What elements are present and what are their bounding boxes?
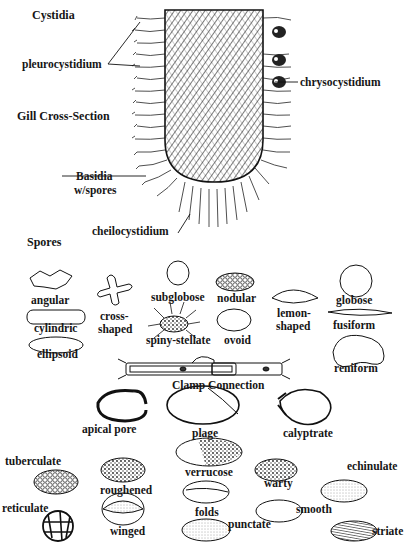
label-calyptrate: calyptrate [283, 427, 333, 439]
label-folds: folds [195, 506, 219, 518]
label-echinulate: echinulate [347, 460, 397, 472]
label-punctate: punctate [228, 518, 271, 530]
label-subglobose: subglobose [151, 291, 205, 303]
label-lemon-shaped: lemon- [277, 307, 311, 319]
label-lemon-shaped-2: shaped [276, 320, 311, 332]
label-roughened: roughened [100, 484, 152, 496]
label-warty: warty [264, 477, 293, 489]
label-ellipsoid: ellipsoid [37, 348, 78, 360]
label-globose: globose [336, 294, 372, 306]
label-nodular: nodular [217, 292, 256, 304]
label-cross-shaped-2: shaped [98, 323, 133, 335]
label-spiny-stellate: spiny-stellate [146, 334, 211, 346]
label-striate: striate [372, 525, 403, 537]
label-ovoid: ovoid [224, 334, 251, 346]
label-fusiform: fusiform [333, 319, 375, 331]
label-reniform: reniform [334, 362, 378, 374]
label-cross-shaped: cross- [100, 310, 129, 322]
label-tuberculate: tuberculate [5, 455, 61, 467]
label-cylindric: cylindric [34, 322, 77, 334]
label-reticulate: reticulate [2, 502, 48, 514]
label-apical-pore: apical pore [82, 423, 136, 435]
label-winged: winged [110, 525, 145, 537]
label-plage: plage [192, 427, 218, 439]
label-angular: angular [31, 294, 69, 306]
label-clamp-connection: Clamp Connection [172, 379, 264, 391]
label-verrucose: verrucose [185, 466, 233, 478]
label-smooth: smooth [296, 503, 332, 515]
